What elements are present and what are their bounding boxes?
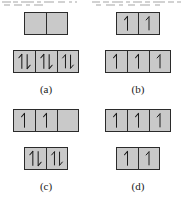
text-remnant-fragment: [140, 4, 150, 6]
orbital-box[interactable]: [116, 12, 138, 35]
text-remnant-fragment: [34, 4, 43, 6]
orbital-box[interactable]: [13, 109, 35, 132]
spin-up-arrow-icon: [139, 148, 159, 169]
spin-up-arrow-icon: [36, 110, 57, 131]
text-remnant-fragment: [21, 1, 34, 3]
text-remnant-fragment: [177, 1, 181, 3]
text-remnant-fragment: [103, 1, 109, 3]
orbital-lower-row-a: [13, 50, 79, 73]
text-remnant-fragment: [4, 4, 10, 6]
option-c[interactable]: (c): [0, 105, 92, 205]
orbital-box[interactable]: [35, 50, 57, 73]
orbital-lower-row-c: [24, 147, 68, 170]
empty-orbital-icon: [58, 110, 78, 131]
spin-up-arrow-icon: [150, 51, 170, 72]
top-cutoff-text-remnant: [0, 0, 184, 7]
spin-paired-arrows-icon: [14, 51, 35, 72]
orbital-box[interactable]: [105, 50, 127, 73]
text-remnant-fragment: [26, 4, 30, 6]
spin-up-arrow-icon: [150, 110, 170, 131]
option-b[interactable]: (b): [92, 8, 184, 108]
spin-paired-arrows-icon: [36, 51, 57, 72]
text-remnant-fragment: [96, 4, 101, 6]
text-remnant-fragment: [2, 1, 11, 3]
orbital-upper-row-a: [24, 12, 68, 35]
orbital-box[interactable]: [127, 109, 149, 132]
text-remnant-fragment: [44, 1, 54, 3]
orbital-box[interactable]: [13, 50, 35, 73]
orbital-box[interactable]: [116, 147, 138, 170]
option-label-c: (c): [0, 180, 92, 193]
orbital-rows-a: [0, 8, 92, 86]
option-a[interactable]: (a): [0, 8, 92, 108]
text-remnant-fragment: [128, 4, 135, 6]
orbital-lower-row-d: [116, 147, 160, 170]
spin-paired-arrows-icon: [47, 148, 67, 169]
orbital-box[interactable]: [149, 50, 171, 73]
empty-orbital-icon: [47, 13, 67, 34]
orbital-box[interactable]: [105, 109, 127, 132]
text-remnant-fragment: [58, 1, 65, 3]
text-remnant-fragment: [168, 1, 174, 3]
orbital-upper-row-c: [13, 109, 79, 132]
text-remnant-fragment: [145, 1, 150, 3]
spin-paired-arrows-icon: [58, 51, 78, 72]
spin-up-arrow-icon: [106, 110, 127, 131]
orbital-box[interactable]: [138, 147, 160, 170]
spin-up-arrow-icon: [106, 51, 127, 72]
spin-paired-arrows-icon: [25, 148, 46, 169]
text-remnant-fragment: [69, 1, 72, 3]
orbital-rows-d: [92, 105, 184, 183]
orbital-rows-b: [92, 8, 184, 86]
text-remnant-fragment: [106, 4, 115, 6]
text-remnant-fragment: [119, 4, 123, 6]
empty-orbital-icon: [25, 13, 46, 34]
spin-up-arrow-icon: [117, 148, 138, 169]
text-remnant-fragment: [126, 1, 130, 3]
orbital-upper-row-b: [116, 12, 160, 35]
orbital-box[interactable]: [138, 12, 160, 35]
option-d[interactable]: (d): [92, 105, 184, 205]
orbital-box[interactable]: [127, 50, 149, 73]
option-label-b: (b): [92, 83, 184, 96]
text-remnant-fragment: [153, 1, 165, 3]
spin-up-arrow-icon: [128, 110, 149, 131]
orbital-box[interactable]: [46, 147, 68, 170]
text-remnant-fragment: [37, 1, 41, 3]
text-remnant-fragment: [112, 1, 123, 3]
text-remnant-fragment: [155, 4, 160, 6]
orbital-box[interactable]: [149, 109, 171, 132]
orbital-box[interactable]: [46, 12, 68, 35]
orbital-lower-row-b: [105, 50, 171, 73]
option-label-d: (d): [92, 180, 184, 193]
orbital-box[interactable]: [24, 12, 46, 35]
spin-up-arrow-icon: [139, 13, 159, 34]
option-label-a: (a): [0, 83, 92, 96]
orbital-rows-c: [0, 105, 92, 183]
spin-up-arrow-icon: [117, 13, 138, 34]
orbital-box[interactable]: [24, 147, 46, 170]
orbital-upper-row-d: [105, 109, 171, 132]
spin-up-arrow-icon: [14, 110, 35, 131]
text-remnant-fragment: [13, 1, 18, 3]
text-remnant-fragment: [92, 1, 100, 3]
spin-up-arrow-icon: [128, 51, 149, 72]
text-remnant-fragment: [14, 4, 22, 6]
orbital-box[interactable]: [57, 109, 79, 132]
orbital-diagram-figure: (a)(b)(c)(d): [0, 8, 184, 215]
orbital-box[interactable]: [35, 109, 57, 132]
orbital-box[interactable]: [57, 50, 79, 73]
text-remnant-fragment: [75, 1, 77, 3]
text-remnant-fragment: [133, 1, 142, 3]
